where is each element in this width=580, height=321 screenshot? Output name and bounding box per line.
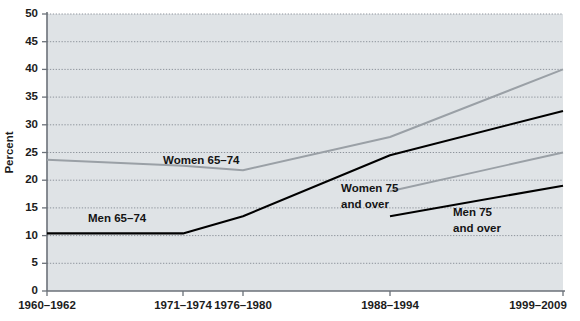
y-tick-label-25: 25	[25, 146, 38, 158]
y-tick-label-10: 10	[25, 229, 38, 241]
y-tick-label-5: 5	[32, 256, 39, 268]
x-tick-label-2: 1976–1980	[214, 299, 272, 311]
y-tick-label-50: 50	[25, 7, 38, 19]
annotation-women-65-74: Women 65–74	[163, 154, 240, 166]
x-tick-label-3: 1988–1994	[361, 299, 419, 311]
y-axis-title: Percent	[3, 131, 15, 173]
annotation-women-75-over-line1: Women 75	[341, 182, 399, 194]
y-tick-label-45: 45	[25, 35, 38, 47]
x-tick-label-4: 1999–2009	[509, 299, 567, 311]
annotation-men-75-over-line2: and over	[453, 222, 501, 234]
x-tick-labels: 1960–1962 1971–1974 1976–1980 1988–1994 …	[18, 299, 567, 311]
y-tick-labels: 50 45 40 35 30 25 20 15 10 5 0	[25, 7, 38, 296]
y-tick-label-20: 20	[25, 173, 38, 185]
x-tick-label-1: 1971–1974	[154, 299, 212, 311]
y-tick-label-0: 0	[32, 284, 38, 296]
annotation-men-75-over-line1: Men 75	[453, 206, 493, 218]
y-tick-label-30: 30	[25, 118, 38, 130]
chart-canvas: 50 45 40 35 30 25 20 15 10 5 0 Percent 1…	[0, 0, 580, 321]
y-tick-label-40: 40	[25, 62, 38, 74]
x-tick-label-0: 1960–1962	[18, 299, 76, 311]
y-tick-label-35: 35	[25, 90, 38, 102]
y-tick-label-15: 15	[25, 201, 38, 213]
annotation-men-65-74: Men 65–74	[88, 212, 147, 224]
annotation-women-75-over-line2: and over	[341, 198, 389, 210]
line-chart: 50 45 40 35 30 25 20 15 10 5 0 Percent 1…	[0, 0, 580, 321]
